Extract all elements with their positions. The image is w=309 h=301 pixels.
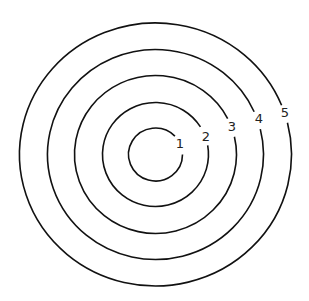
ring-3 (74, 75, 236, 233)
ring-4 (47, 49, 263, 259)
ring-label-1: 1 (176, 136, 184, 151)
concentric-rings-diagram: 12345 (0, 0, 309, 301)
ring-label-5: 5 (281, 105, 289, 120)
ring-label-3: 3 (228, 119, 236, 134)
ring-2 (102, 102, 208, 206)
rings-svg: 12345 (0, 0, 309, 301)
ring-label-2: 2 (202, 129, 210, 144)
ring-5 (19, 23, 291, 286)
ring-label-4: 4 (255, 111, 263, 126)
ring-1 (128, 128, 182, 181)
